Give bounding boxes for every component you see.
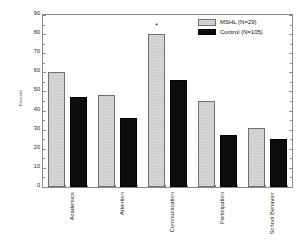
y-axis-minor-tick xyxy=(43,82,45,83)
y-axis-major-tick xyxy=(289,149,292,150)
y-axis-minor-tick xyxy=(290,44,292,45)
y-axis-minor-tick xyxy=(43,101,45,102)
y-axis-major-tick xyxy=(43,111,46,112)
legend-label-mshl: MSHL (N=29) xyxy=(220,19,257,25)
y-axis-major-tick xyxy=(43,168,46,169)
bar-participation-control xyxy=(220,135,237,187)
y-axis-minor-tick xyxy=(290,101,292,102)
y-axis-major-tick xyxy=(43,53,46,54)
x-axis-tick xyxy=(215,185,216,188)
y-axis-tick-label: 50 xyxy=(34,88,40,94)
y-axis-minor-tick xyxy=(290,25,292,26)
chart-legend: MSHL (N=29) Control (N=105) xyxy=(198,19,263,35)
y-axis-tick-labels: 0102030405060708090 xyxy=(20,0,40,247)
x-axis-tick xyxy=(165,185,166,188)
y-axis-minor-tick xyxy=(43,63,45,64)
y-axis-minor-tick xyxy=(43,44,45,45)
y-axis-tick-label: 40 xyxy=(34,107,40,113)
y-axis-minor-tick xyxy=(290,177,292,178)
y-axis-minor-tick xyxy=(43,177,45,178)
y-axis-minor-tick xyxy=(290,139,292,140)
y-axis-major-tick xyxy=(43,72,46,73)
y-axis-tick-label: 60 xyxy=(34,69,40,75)
x-axis-category-label: Participation xyxy=(219,192,225,224)
bar-academics-mshl xyxy=(48,72,65,187)
legend-swatch-control xyxy=(198,29,216,36)
bar-school-behavior-mshl xyxy=(248,128,265,187)
y-axis-tick-label: 20 xyxy=(34,145,40,151)
bar-school-behavior-control xyxy=(270,139,287,187)
x-axis-category-labels: AcademicsAttentionCommunicationParticipa… xyxy=(42,188,293,247)
x-axis-tick xyxy=(137,185,138,188)
y-axis-minor-tick xyxy=(43,120,45,121)
y-axis-minor-tick xyxy=(43,158,45,159)
y-axis-minor-tick xyxy=(290,120,292,121)
bar-communication-mshl xyxy=(148,34,165,187)
bar-attention-control xyxy=(120,118,137,187)
plot-area: * xyxy=(42,14,293,188)
y-axis-major-tick xyxy=(43,34,46,35)
y-axis-minor-tick xyxy=(290,158,292,159)
x-axis-tick xyxy=(87,185,88,188)
y-axis-major-tick xyxy=(289,53,292,54)
bar-participation-mshl xyxy=(198,101,215,187)
x-axis-tick xyxy=(287,185,288,188)
legend-item-mshl: MSHL (N=29) xyxy=(198,19,263,26)
y-axis-tick-label: 30 xyxy=(34,126,40,132)
y-axis-minor-tick xyxy=(290,63,292,64)
bar-attention-mshl xyxy=(98,95,115,187)
x-axis-tick xyxy=(65,185,66,188)
x-axis-tick xyxy=(237,185,238,188)
x-axis-category-label: Attention xyxy=(119,192,125,215)
significance-asterisk: * xyxy=(155,22,158,29)
y-axis-major-tick xyxy=(43,15,46,16)
y-axis-major-tick xyxy=(289,168,292,169)
y-axis-major-tick xyxy=(43,149,46,150)
y-axis-major-tick xyxy=(289,130,292,131)
y-axis-major-tick xyxy=(289,15,292,16)
y-axis-major-tick xyxy=(43,91,46,92)
bar-communication-control xyxy=(170,80,187,187)
y-axis-tick-label: 0 xyxy=(37,183,40,189)
legend-swatch-mshl xyxy=(198,19,216,26)
y-axis-tick-label: 80 xyxy=(34,30,40,36)
x-axis-tick xyxy=(115,185,116,188)
x-axis-tick xyxy=(187,185,188,188)
y-axis-minor-tick xyxy=(43,139,45,140)
legend-label-control: Control (N=105) xyxy=(220,29,263,35)
y-axis-major-tick xyxy=(289,91,292,92)
bar-academics-control xyxy=(70,97,87,187)
legend-item-control: Control (N=105) xyxy=(198,29,263,36)
y-axis-minor-tick xyxy=(43,25,45,26)
y-axis-major-tick xyxy=(289,34,292,35)
bar-chart-figure: Percent 0102030405060708090 * AcademicsA… xyxy=(0,0,305,247)
y-axis-minor-tick xyxy=(290,82,292,83)
x-axis-category-label: School Behavior xyxy=(269,192,275,234)
y-axis-tick-label: 70 xyxy=(34,49,40,55)
y-axis-tick-label: 90 xyxy=(34,11,40,17)
x-axis-category-label: Academics xyxy=(69,192,75,220)
x-axis-tick xyxy=(265,185,266,188)
y-axis-major-tick xyxy=(289,72,292,73)
y-axis-major-tick xyxy=(289,111,292,112)
y-axis-tick-label: 10 xyxy=(34,164,40,170)
y-axis-major-tick xyxy=(43,130,46,131)
x-axis-category-label: Communication xyxy=(169,192,175,232)
